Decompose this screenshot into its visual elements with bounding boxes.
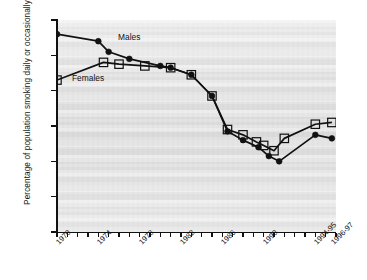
series-overlay (57, 20, 336, 232)
series-males (57, 31, 335, 164)
x-tick (294, 233, 295, 237)
chart-figure: Percentage of population smoking daily o… (0, 0, 367, 280)
x-tick (160, 233, 161, 237)
data-point-circle (126, 56, 132, 62)
x-tick (242, 233, 243, 237)
data-point-circle (57, 31, 60, 37)
x-tick (211, 233, 212, 237)
x-tick (77, 233, 78, 237)
data-point-circle (106, 49, 112, 55)
x-tick (87, 233, 88, 237)
data-point-circle (95, 38, 101, 44)
data-point-circle (329, 135, 335, 141)
x-tick (118, 233, 119, 237)
data-point-circle (266, 153, 272, 159)
x-tick (253, 233, 254, 237)
data-point-circle (240, 137, 246, 143)
series-label-females: Females (72, 73, 104, 83)
y-axis-title: Percentage of population smoking daily o… (23, 0, 32, 218)
x-tick (170, 233, 171, 237)
x-tick (129, 233, 130, 237)
series-line (57, 34, 332, 161)
x-tick (201, 233, 202, 237)
x-tick (304, 233, 305, 237)
data-point-circle (312, 132, 318, 138)
data-point-circle (276, 158, 282, 164)
x-tick (284, 233, 285, 237)
series-label-males: Males (118, 32, 140, 42)
